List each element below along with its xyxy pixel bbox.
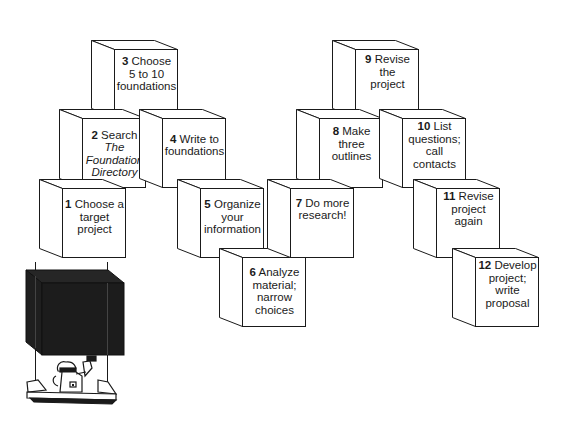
worker-figure-icon [53, 356, 96, 392]
diagram-canvas: 3 Choose5 to 10foundations 2 SearchTheFo… [0, 0, 567, 421]
worker-lifting-block-illustration [0, 0, 567, 421]
